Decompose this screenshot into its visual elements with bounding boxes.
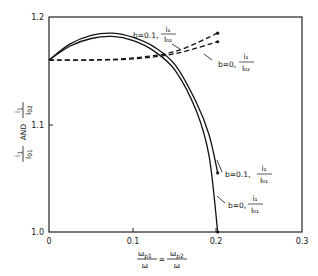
svg-text:i₁: i₁ <box>252 194 257 203</box>
series-end-marker <box>216 32 219 35</box>
plot-frame <box>49 17 302 232</box>
svg-text:=: = <box>159 255 165 264</box>
svg-text:ωp1: ωp1 <box>138 249 152 260</box>
svg-text:i1: i1 <box>13 151 23 157</box>
svg-text:i₁: i₁ <box>165 25 170 34</box>
annotation-b01-I02: b=0.1, i₁ I₀₂ <box>133 25 180 49</box>
svg-text:I₀₁: I₀₁ <box>251 206 259 215</box>
svg-text:I₀₂: I₀₂ <box>242 64 250 73</box>
svg-text:b=0,: b=0, <box>218 60 236 69</box>
x-axis-label: ωp1 ω = ωp2 ω <box>137 249 187 270</box>
svg-text:i₁: i₁ <box>261 164 266 173</box>
svg-text:I02: I02 <box>24 105 33 115</box>
svg-text:b=0.1,: b=0.1, <box>225 170 250 179</box>
annotation-b0-I01: b=0, i₁ I₀₁ <box>217 194 263 215</box>
y-tick-label: 1.0 <box>31 228 44 237</box>
svg-text:b=0,: b=0, <box>228 201 246 210</box>
y-axis-label: i1 I01 AND i1 I02 <box>13 102 33 162</box>
svg-text:i₁: i₁ <box>243 52 248 61</box>
y-tick-label: 1.2 <box>31 13 44 22</box>
x-tick-label: 0 <box>46 237 51 246</box>
annotation-b01-I01: b=0.1, i₁ I₀₁ <box>217 160 272 185</box>
svg-text:i1: i1 <box>13 107 23 113</box>
svg-text:I₀₁: I₀₁ <box>260 176 268 185</box>
series-end-marker <box>216 40 219 43</box>
series-line-3 <box>49 36 218 232</box>
series-end-marker <box>216 230 219 233</box>
svg-text:ω: ω <box>142 261 148 270</box>
x-tick-label: 0.1 <box>127 237 140 246</box>
series-layer <box>49 32 219 234</box>
svg-text:ωp2: ωp2 <box>170 249 184 260</box>
x-tick-label: 0.3 <box>296 237 309 246</box>
svg-text:I01: I01 <box>24 149 33 159</box>
svg-text:I₀₂: I₀₂ <box>164 35 172 44</box>
series-end-marker <box>216 171 219 174</box>
y-tick-label: 1.1 <box>31 121 44 130</box>
x-ticks <box>133 228 216 232</box>
x-tick-label: 0.2 <box>210 237 223 246</box>
svg-text:b=0.1,: b=0.1, <box>133 31 158 40</box>
annotation-b0-I02: b=0, i₁ I₀₂ <box>204 52 254 73</box>
svg-text:ω: ω <box>174 261 180 270</box>
chart: 0 0.1 0.2 0.3 1.0 1.1 1.2 ωp1 ω = ωp2 ω … <box>0 0 318 276</box>
svg-text:AND: AND <box>19 124 28 141</box>
